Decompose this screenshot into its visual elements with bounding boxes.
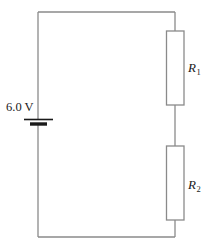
resistor-box-icon-r1 xyxy=(167,31,185,105)
resistor-label-r2-letter: R xyxy=(188,177,196,192)
resistor-label-r1-letter: R xyxy=(188,60,196,75)
resistor-label-r2-subscript: 2 xyxy=(196,184,200,194)
resistor-label-r1: R1 xyxy=(188,61,200,74)
resistor-r2 xyxy=(167,146,185,220)
circuit-diagram: 6.0 V R1 R2 xyxy=(0,0,205,250)
source-voltage-label: 6.0 V xyxy=(6,101,34,114)
resistor-box-icon-r2 xyxy=(167,146,185,220)
circuit-wires xyxy=(38,12,175,237)
resistor-label-r2: R2 xyxy=(188,178,200,191)
circuit-schematic-svg xyxy=(0,0,205,250)
resistor-label-r1-subscript: 1 xyxy=(196,67,200,77)
battery-cell-icon xyxy=(24,120,53,125)
resistor-r1 xyxy=(167,31,185,105)
